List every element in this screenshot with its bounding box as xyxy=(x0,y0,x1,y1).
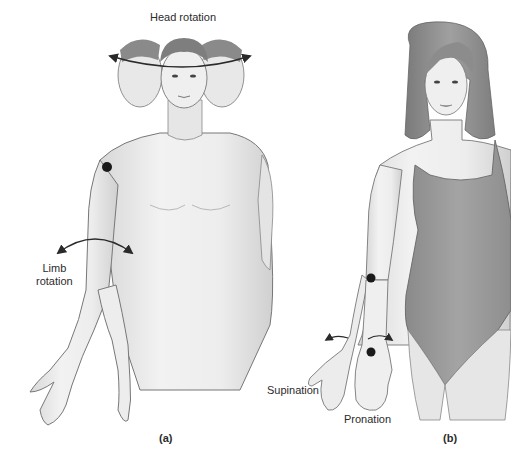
elbow-marker xyxy=(367,274,376,283)
shoulder-joint-marker xyxy=(102,162,112,172)
panel-b-label: (b) xyxy=(443,432,457,444)
head-front xyxy=(160,38,208,108)
supination-label: Supination xyxy=(267,384,319,397)
limb-rotation-label-line2: rotation xyxy=(36,275,73,288)
panel-a-label: (a) xyxy=(159,432,172,444)
panel-a-figure xyxy=(30,38,273,425)
panel-b-figure xyxy=(308,22,511,420)
head-rotation-label: Head rotation xyxy=(150,11,216,24)
pronation-label: Pronation xyxy=(344,413,391,426)
wrist-marker xyxy=(367,348,376,357)
anatomy-illustration xyxy=(0,0,511,457)
limb-rotation-label: Limb rotation xyxy=(36,262,73,288)
head-left-profile xyxy=(118,40,162,107)
supination-arrow xyxy=(326,336,348,340)
limb-rotation-label-line1: Limb xyxy=(36,262,73,275)
